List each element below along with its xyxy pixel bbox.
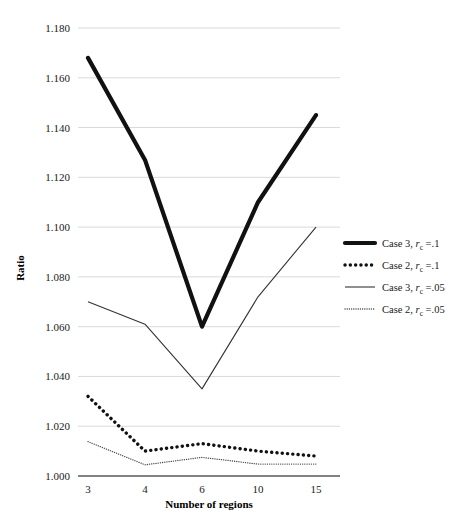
y-axis-title: Ratio xyxy=(14,255,26,281)
series-line xyxy=(88,227,316,389)
series-line xyxy=(88,58,316,327)
x-axis-title: Number of regions xyxy=(165,498,253,510)
x-tick-label: 15 xyxy=(311,483,323,495)
x-tick-label: 10 xyxy=(253,483,265,495)
x-tick-label: 3 xyxy=(85,483,91,495)
y-axis-tick-labels: 1.0001.0201.0401.0601.0801.1001.1201.140… xyxy=(45,22,70,482)
line-chart-svg: 1.0001.0201.0401.0601.0801.1001.1201.140… xyxy=(0,0,456,526)
y-tick-label: 1.180 xyxy=(45,22,70,34)
y-tick-label: 1.160 xyxy=(45,72,70,84)
y-tick-label: 1.100 xyxy=(45,221,70,233)
legend-label: Case 2, rc =.05 xyxy=(382,304,445,318)
y-tick-label: 1.000 xyxy=(45,470,70,482)
x-tick-label: 4 xyxy=(142,483,148,495)
gridlines-group xyxy=(78,28,340,426)
x-tick-label: 6 xyxy=(199,483,205,495)
y-tick-label: 1.060 xyxy=(45,321,70,333)
data-series-group xyxy=(88,58,316,465)
legend-label: Case 3, rc =.1 xyxy=(382,238,439,252)
y-tick-label: 1.040 xyxy=(45,370,70,382)
y-tick-label: 1.020 xyxy=(45,420,70,432)
legend-label: Case 2, rc =.1 xyxy=(382,260,439,274)
y-tick-label: 1.140 xyxy=(45,122,70,134)
chart-legend: Case 3, rc =.1Case 2, rc =.1Case 3, rc =… xyxy=(345,238,445,318)
y-tick-label: 1.120 xyxy=(45,171,70,183)
x-axis-tick-labels: 3461015 xyxy=(85,483,322,495)
legend-label: Case 3, rc =.05 xyxy=(382,282,445,296)
chart-figure: 1.0001.0201.0401.0601.0801.1001.1201.140… xyxy=(0,0,456,526)
y-tick-label: 1.080 xyxy=(45,271,70,283)
